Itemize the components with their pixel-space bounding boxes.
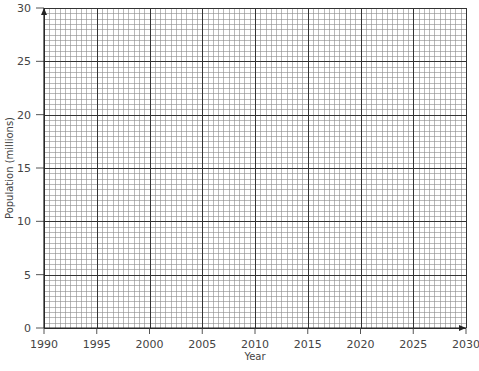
y-axis-label: Population (millions) [4,117,15,219]
y-tick-label: 25 [17,55,31,68]
x-axis-label: Year [243,351,266,362]
y-tick-label: 5 [24,269,31,282]
x-tick-label: 2010 [241,338,269,351]
y-tick-label: 20 [17,109,31,122]
x-tick-label: 2005 [188,338,216,351]
y-tick-label: 30 [17,2,31,15]
graph-paper-chart: 1990199520002005201020152020202520300510… [0,0,479,371]
x-tick-label: 2000 [136,338,164,351]
x-tick-label: 2020 [347,338,375,351]
y-tick-label: 0 [24,322,31,335]
x-tick-label: 2030 [452,338,479,351]
y-tick-label: 15 [17,162,31,175]
y-tick-label: 10 [17,215,31,228]
x-tick-label: 1995 [83,338,111,351]
x-tick-label: 2015 [294,338,322,351]
y-axis-arrow-icon [41,8,47,15]
x-axis-arrow-icon [459,325,466,331]
x-tick-label: 1990 [30,338,58,351]
x-tick-label: 2025 [399,338,427,351]
